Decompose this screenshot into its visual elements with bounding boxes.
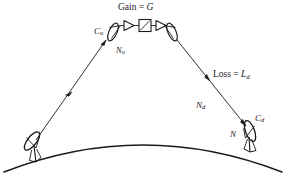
satellite-link-diagram: Gain = G Loss = Ld Cu Nu Nd Cd N bbox=[0, 0, 286, 179]
label-noise-uplink-subscript: u bbox=[122, 49, 125, 55]
label-gain-prefix: Gain = bbox=[118, 2, 147, 12]
amplifier-triangle-input bbox=[124, 21, 134, 31]
label-gain-symbol: G bbox=[147, 2, 154, 12]
label-noise-downlink-subscript: d bbox=[202, 103, 205, 110]
label-noise-uplink: Nu bbox=[116, 46, 125, 55]
diagram-canvas bbox=[0, 0, 286, 179]
label-gain: Gain = G bbox=[118, 3, 153, 13]
label-loss: Loss = Ld bbox=[213, 70, 250, 80]
label-noise-downlink: Nd bbox=[196, 101, 205, 111]
uplink-earth-station-dish bbox=[22, 130, 43, 162]
label-loss-prefix: Loss = bbox=[213, 69, 241, 79]
downlink-earth-station-dish bbox=[242, 119, 258, 152]
label-loss-subscript: d bbox=[246, 73, 249, 80]
label-carrier-uplink-subscript: u bbox=[100, 29, 103, 36]
label-carrier-uplink: Cu bbox=[94, 27, 103, 37]
satellite-receive-dish bbox=[105, 22, 120, 43]
label-noise-receiver: N bbox=[230, 130, 236, 140]
frequency-converter-box bbox=[139, 20, 151, 32]
transponder-chain bbox=[121, 20, 167, 32]
satellite-transmit-dish bbox=[164, 22, 179, 43]
label-noise-receiver-symbol: N bbox=[230, 129, 236, 139]
label-carrier-downlink: Cd bbox=[255, 114, 264, 124]
uplink-signal-path-arrow bbox=[36, 40, 106, 140]
label-carrier-downlink-subscript: d bbox=[261, 116, 264, 123]
earth-horizon-arc bbox=[4, 145, 282, 172]
downlink-signal-path-arrow bbox=[177, 40, 246, 126]
